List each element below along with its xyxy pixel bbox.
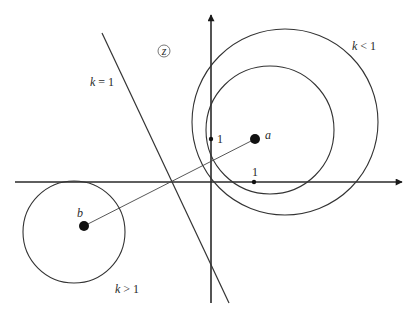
label-unit-y: 1	[217, 132, 223, 146]
plane-symbol-z: z	[161, 44, 167, 58]
outer-circle-k-less-than-1	[192, 29, 378, 215]
label-k-equals-1: k = 1	[90, 75, 114, 89]
label-point-b: b	[77, 206, 83, 220]
label-point-a: a	[265, 128, 271, 142]
label-unit-x: 1	[252, 165, 258, 179]
point-b-dot	[79, 221, 89, 231]
apollonius-circles-diagram: z k = 1 k < 1 k > 1 a b 1 1	[0, 0, 413, 315]
point-a-dot	[250, 134, 260, 144]
unit-tick-y-dot	[209, 137, 213, 141]
bisector-line-k-equals-1	[102, 33, 229, 303]
label-k-greater-than-1: k > 1	[115, 282, 139, 296]
unit-tick-x-dot	[252, 180, 256, 184]
diagram-canvas: z k = 1 k < 1 k > 1 a b 1 1	[0, 0, 413, 315]
circle-k-greater-than-1	[23, 181, 125, 283]
label-k-less-than-1: k < 1	[352, 39, 376, 53]
